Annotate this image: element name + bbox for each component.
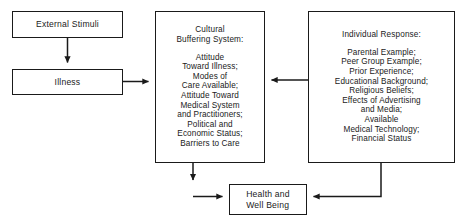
- node-individual-response-title: Individual Response:: [342, 30, 421, 40]
- node-individual-response-items: Parental Example; Peer Group Example; Pr…: [335, 48, 428, 144]
- node-cultural-buffering-system-title: Cultural Buffering System:: [176, 25, 243, 44]
- node-external-stimuli-label: External Stimuli: [36, 19, 99, 29]
- node-individual-response: Individual Response: Parental Example; P…: [308, 11, 455, 163]
- node-illness: Illness: [12, 69, 123, 95]
- node-external-stimuli: External Stimuli: [12, 11, 123, 38]
- node-cultural-buffering-system: Cultural Buffering System: Attitude Towa…: [155, 11, 265, 163]
- node-health-and-well-being: Health and Well Being: [229, 184, 307, 215]
- node-health-and-well-being-label: Health and Well Being: [246, 189, 290, 210]
- diagram-canvas: External Stimuli Illness Cultural Buffer…: [0, 0, 465, 222]
- edge-individual-response-to-health-and-well-being: [314, 163, 382, 197]
- node-illness-label: Illness: [55, 77, 81, 87]
- node-cultural-buffering-system-items: Attitude Toward Illness; Modes of Care A…: [177, 53, 243, 149]
- edge-cultural-buffering-system-to-health-and-well-being: [193, 163, 223, 197]
